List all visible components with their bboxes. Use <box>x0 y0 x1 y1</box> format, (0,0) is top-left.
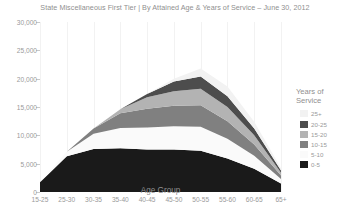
legend-label: 10-15 <box>311 141 327 148</box>
legend-label: 0-5 <box>311 161 320 168</box>
x-tick-label: 45-50 <box>165 196 182 203</box>
x-axis-title: Age Group <box>40 186 281 195</box>
legend-swatch-icon <box>300 151 308 158</box>
legend-items: 25+20-2515-2010-155-100-5 <box>296 109 350 169</box>
x-tick-label: 25-30 <box>58 196 75 203</box>
legend-swatch-icon <box>300 131 308 138</box>
x-tick-label: 65+ <box>275 196 286 203</box>
legend-swatch-icon <box>300 161 308 168</box>
x-tick-label: 50-55 <box>192 196 209 203</box>
legend-label: 5-10 <box>311 151 323 158</box>
legend-item[interactable]: 0-5 <box>296 160 350 170</box>
y-tick-label: 30,000 <box>17 19 37 26</box>
legend-item[interactable]: 15-20 <box>296 129 350 139</box>
y-tick-label: 0 <box>33 189 37 196</box>
legend-item[interactable]: 25+ <box>296 109 350 119</box>
stacked-area-series <box>40 22 281 192</box>
y-tick-label: 5,000 <box>20 160 37 167</box>
x-tick-label: 30-35 <box>85 196 102 203</box>
legend-swatch-icon <box>300 110 308 117</box>
x-tick-label: 55-60 <box>219 196 236 203</box>
legend-label: 15-20 <box>311 131 327 138</box>
y-tick-label: 10,000 <box>17 132 37 139</box>
x-gridline <box>281 22 282 192</box>
legend-title-line-2: Service <box>296 97 350 106</box>
chart-title: State Miscellaneous First Tier | By Atta… <box>0 3 350 12</box>
x-tick-label: 35-40 <box>112 196 129 203</box>
y-tick-label: 20,000 <box>17 75 37 82</box>
y-tick-label: 15,000 <box>17 104 37 111</box>
legend-item[interactable]: 10-15 <box>296 139 350 149</box>
legend-title: Years of Service <box>296 88 350 105</box>
x-tick-label: 40-45 <box>139 196 156 203</box>
legend-label: 25+ <box>311 110 322 117</box>
legend-item[interactable]: 5-10 <box>296 150 350 160</box>
x-tick-label: 15-25 <box>32 196 49 203</box>
chart-legend: Years of Service 25+20-2515-2010-155-100… <box>296 88 350 170</box>
legend-item[interactable]: 20-25 <box>296 119 350 129</box>
y-tick-label: 25,000 <box>17 47 37 54</box>
plot-area <box>40 22 281 192</box>
legend-label: 20-25 <box>311 121 327 128</box>
legend-swatch-icon <box>300 141 308 148</box>
legend-swatch-icon <box>300 121 308 128</box>
x-tick-label: 60-65 <box>246 196 263 203</box>
plot-frame <box>40 22 281 192</box>
